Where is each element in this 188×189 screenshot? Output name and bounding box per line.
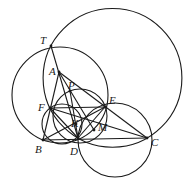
label-D: D	[69, 145, 78, 157]
label-B: B	[35, 143, 42, 155]
point-A	[58, 71, 61, 74]
point-E	[104, 106, 107, 109]
label-P: P	[67, 79, 75, 91]
label-C: C	[151, 136, 159, 148]
point-B	[42, 139, 45, 142]
point-M	[93, 129, 96, 132]
label-E: E	[108, 94, 116, 106]
label-A: A	[48, 65, 56, 77]
diagram-figure: TAPFEKMBDC	[0, 0, 188, 189]
point-D	[77, 137, 80, 140]
big-circle-TDC	[43, 9, 182, 148]
label-M: M	[97, 121, 108, 133]
point-T	[50, 45, 53, 48]
label-F: F	[37, 101, 45, 113]
geometry-diagram: TAPFEKMBDC	[0, 0, 188, 189]
label-T: T	[40, 34, 47, 46]
point-F	[49, 107, 52, 110]
point-C	[146, 137, 149, 140]
label-K: K	[70, 117, 79, 129]
